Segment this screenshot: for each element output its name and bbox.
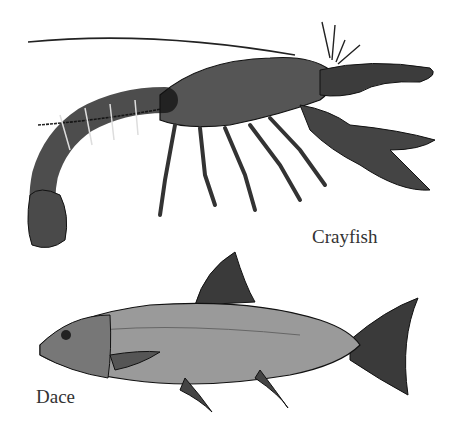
crayfish-label: Crayfish (312, 226, 377, 248)
dace-label: Dace (36, 386, 75, 408)
engraving-svg (0, 0, 451, 427)
dace-drawing (40, 252, 418, 412)
crayfish-drawing (28, 22, 435, 248)
illustration-canvas: Crayfish Dace (0, 0, 451, 427)
